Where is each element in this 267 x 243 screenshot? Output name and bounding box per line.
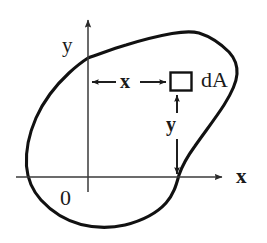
diagram-canvas: [0, 0, 267, 243]
area-region-outline: [26, 32, 237, 228]
origin-label: 0: [60, 187, 71, 209]
dimension-x-label: x: [120, 71, 130, 91]
y-axis-label: y: [62, 35, 73, 56]
area-element-label: dA: [201, 69, 228, 91]
area-element-dA-box: [171, 73, 192, 91]
dimension-y-label: y: [166, 114, 176, 134]
figure-container: y x 0 x y dA: [0, 0, 267, 243]
x-axis-label: x: [236, 166, 247, 187]
